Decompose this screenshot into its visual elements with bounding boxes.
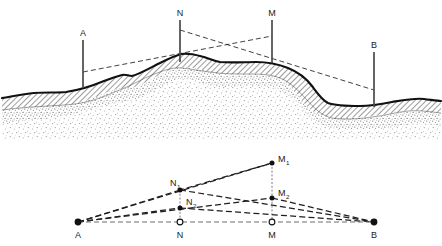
point-label-M2-base: M [278,188,286,198]
point-label-M1-base: M [278,154,286,164]
point-label-N2-subscript: 2 [193,202,197,209]
point-label-N1-base: N [170,178,177,188]
point-label-N2-base: N [186,197,193,207]
point-label-M: M [268,230,276,240]
point-label-A: A [75,230,81,240]
station-label-M: M [268,8,276,18]
point-marker-N2 [178,206,183,211]
point-marker-N [177,219,183,225]
survey-figure: A N M B A N M B [0,0,442,246]
point-label-B: B [371,230,377,240]
station-label-N: N [177,8,184,18]
point-label-N: N [177,230,184,240]
station-label-A: A [80,28,86,38]
point-label-N1-subscript: 1 [177,183,181,190]
point-marker-M [269,219,275,225]
point-label-M1-subscript: 1 [286,159,290,166]
point-marker-M1 [270,161,275,166]
point-marker-B [371,219,378,226]
point-marker-M2 [270,196,275,201]
point-marker-A [75,219,82,226]
point-label-M2-subscript: 2 [286,193,290,200]
station-label-B: B [371,40,377,50]
